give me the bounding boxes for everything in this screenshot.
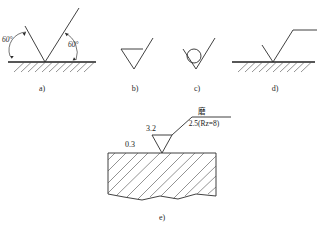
angle-label-left-a: 60° xyxy=(2,35,13,44)
figure-part-e: 0.3 3.2 磨 2.5(Rz=8) e) xyxy=(108,106,231,222)
no-removal-circle-c xyxy=(187,49,201,63)
angle-arrow-right-tail-a xyxy=(73,57,76,60)
angle-label-right-a: 60° xyxy=(68,40,79,49)
symbol-right-leg-b xyxy=(134,38,153,69)
angle-arrow-left-tail-a xyxy=(10,56,14,59)
extension-value-e: 2.5(Rz=8) xyxy=(189,119,220,128)
symbol-right-leg-a xyxy=(45,8,79,62)
process-note-e: 磨 xyxy=(198,106,206,116)
figure-part-b: b) xyxy=(121,38,153,93)
part-label-c: c) xyxy=(194,84,201,93)
symbol-left-leg-c xyxy=(183,49,196,69)
machining-allowance-value-e: 0.3 xyxy=(125,140,135,149)
symbol-left-leg-b xyxy=(121,49,134,69)
symbol-left-leg-e-inner xyxy=(152,135,162,153)
part-label-e: e) xyxy=(159,213,166,222)
symbol-left-leg-d xyxy=(262,45,273,62)
part-label-b: b) xyxy=(132,84,139,93)
symbol-left-leg-a xyxy=(25,26,45,62)
figure-part-d: d) xyxy=(232,30,317,93)
surface-hatching-d xyxy=(238,63,311,73)
symbol-right-leg-e-inner xyxy=(162,135,172,153)
figure-part-c: c) xyxy=(183,38,215,93)
figure-part-a: 60° 60° a) xyxy=(2,8,96,93)
roughness-value-e: 3.2 xyxy=(146,124,156,133)
surface-hatching-a xyxy=(14,63,94,73)
symbol-right-leg-d xyxy=(273,30,293,62)
part-label-d: d) xyxy=(272,84,279,93)
symbol-right-leg-c xyxy=(196,38,215,69)
drawing-sheet: 60° 60° a) b) c) xyxy=(0,0,321,234)
part-label-a: a) xyxy=(39,84,46,93)
section-hatching-e xyxy=(108,153,216,199)
